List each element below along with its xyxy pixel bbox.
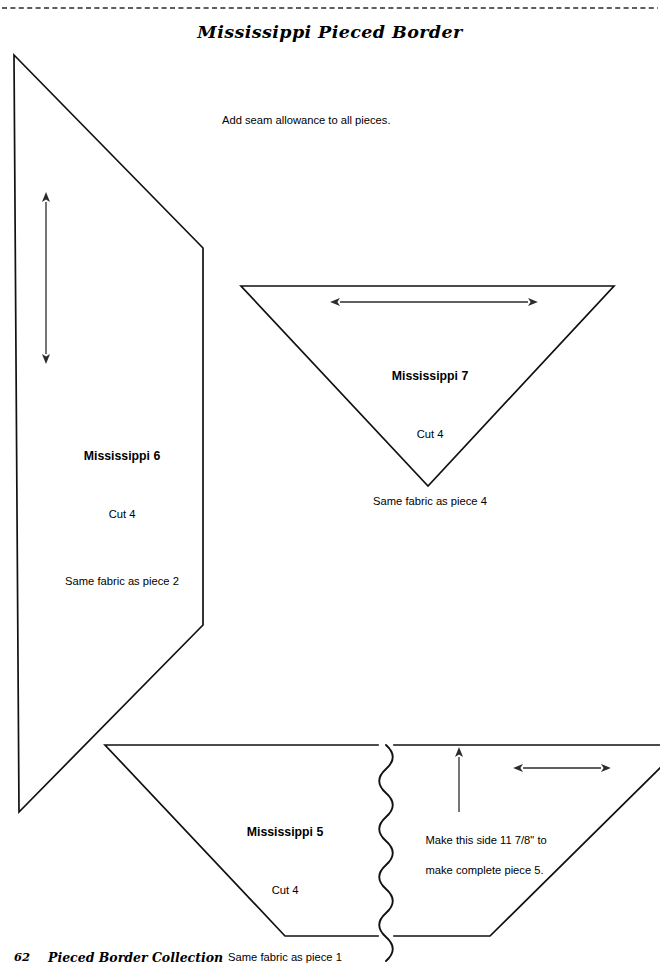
piece-name-mississippi-7: Mississippi 7	[330, 369, 530, 385]
piece-fabric-note-mississippi-6: Same fabric as piece 2	[20, 574, 224, 588]
callout-line-1: Make this side 11 7/8" to	[425, 834, 546, 846]
callout-line-2: make complete piece 5.	[425, 864, 543, 876]
piece-cut-mississippi-5: Cut 4	[185, 883, 385, 897]
piece-name-mississippi-5: Mississippi 5	[185, 825, 385, 841]
piece-cut-mississippi-7: Cut 4	[330, 427, 530, 441]
piece-cut-mississippi-6: Cut 4	[20, 507, 224, 521]
piece-label-mississippi-5: Mississippi 5 Cut 4 Same fabric as piece…	[185, 784, 385, 966]
page-footer: 62 Pieced Border Collection	[0, 950, 660, 966]
measurement-callout: Make this side 11 7/8" to make complete …	[413, 818, 547, 894]
pattern-page: Mississippi Pieced Border Add seam allow…	[0, 0, 660, 966]
page-title: Mississippi Pieced Border	[0, 21, 660, 43]
piece-label-mississippi-6: Mississippi 6 Cut 4 Same fabric as piece…	[20, 408, 224, 629]
piece-name-mississippi-6: Mississippi 6	[20, 449, 224, 465]
piece-fabric-note-mississippi-7: Same fabric as piece 4	[330, 494, 530, 508]
footer-book-title: Pieced Border Collection	[48, 950, 223, 965]
piece-label-mississippi-7: Mississippi 7 Cut 4 Same fabric as piece…	[330, 328, 530, 549]
footer-page-number: 62	[14, 950, 30, 964]
seam-allowance-note: Add seam allowance to all pieces.	[222, 113, 391, 127]
